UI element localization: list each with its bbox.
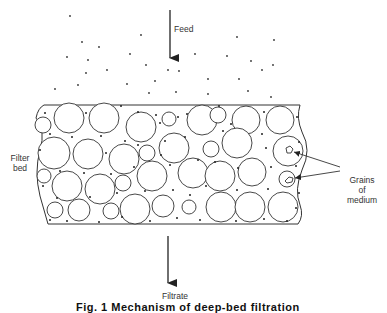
figure-caption: Fig. 1 Mechanism of deep-bed filtration xyxy=(76,301,300,313)
grains-label-line2: of xyxy=(342,185,382,195)
filter-bed-label: Filter bed xyxy=(6,153,34,173)
grains-of-medium-label: Grains of medium xyxy=(342,175,382,205)
filter-bed-label-line2: bed xyxy=(6,163,34,173)
filtrate-label: Filtrate xyxy=(155,291,195,301)
filter-grains xyxy=(35,103,303,224)
filter-bed-label-line1: Filter xyxy=(6,153,34,163)
grains-label-line1: Grains xyxy=(342,175,382,185)
feed-label: Feed xyxy=(174,24,193,34)
grains-label-line3: medium xyxy=(342,195,382,205)
feed-particles xyxy=(54,15,275,98)
